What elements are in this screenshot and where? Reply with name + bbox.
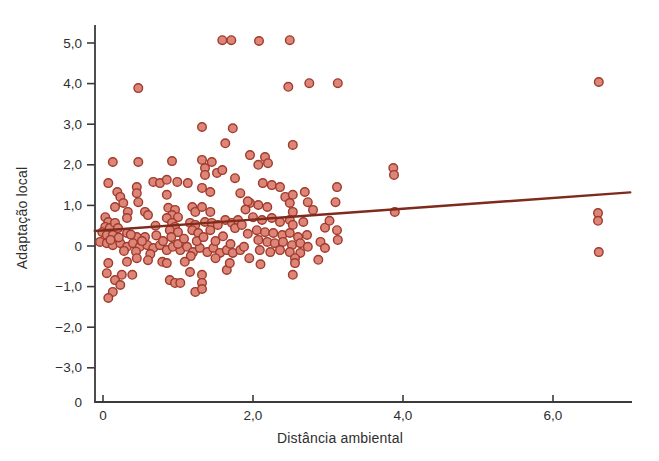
data-point	[206, 208, 215, 217]
data-point	[289, 271, 298, 280]
y-tick-label: 2,0	[63, 157, 82, 172]
data-point	[263, 203, 272, 212]
data-point	[276, 246, 285, 255]
data-point	[198, 203, 207, 212]
data-point	[390, 171, 399, 180]
data-point	[134, 84, 143, 93]
data-point	[276, 183, 285, 192]
data-point	[120, 247, 129, 256]
data-point	[244, 230, 253, 239]
data-point	[304, 243, 313, 252]
data-point	[123, 214, 132, 223]
data-point	[199, 233, 208, 242]
data-point	[286, 229, 295, 238]
x-tick-label: 6,0	[544, 408, 563, 423]
data-point	[595, 78, 604, 87]
data-point	[255, 246, 264, 255]
data-point	[304, 198, 313, 207]
data-point	[163, 191, 172, 200]
data-point	[104, 179, 113, 188]
data-point	[229, 124, 238, 133]
data-point	[286, 36, 295, 45]
data-point	[118, 271, 127, 280]
data-point	[211, 254, 220, 263]
data-point	[254, 236, 263, 245]
data-point	[119, 199, 128, 208]
data-point	[264, 159, 273, 168]
data-point	[127, 230, 136, 239]
data-point	[201, 171, 210, 180]
data-point	[256, 260, 265, 269]
scatter-figure: 5,04,03,02,01,00−1,0−2,0−3,0002,04,06,0 …	[0, 0, 659, 461]
data-point	[254, 201, 263, 210]
data-point	[133, 254, 142, 263]
data-point	[246, 151, 255, 160]
data-point	[241, 205, 250, 214]
data-point	[314, 255, 323, 264]
y-tick-label: 1,0	[63, 198, 82, 213]
data-point	[291, 259, 300, 268]
y-tick-label: −3,0	[55, 360, 82, 375]
data-point	[181, 258, 190, 267]
data-point	[301, 188, 310, 197]
data-point	[104, 259, 113, 268]
data-point	[279, 238, 288, 247]
local-adaptation-scatter-chart: 5,04,03,02,01,00−1,0−2,0−3,0002,04,06,0	[0, 0, 659, 461]
data-point	[321, 244, 330, 253]
data-point	[206, 226, 215, 235]
data-point	[240, 243, 249, 252]
data-point	[333, 226, 342, 235]
data-point	[219, 232, 228, 241]
data-point	[134, 198, 143, 207]
data-point	[226, 259, 235, 268]
data-point	[309, 206, 318, 215]
data-point	[266, 248, 275, 257]
y-tick-label: 4,0	[63, 76, 82, 91]
data-point	[159, 237, 168, 246]
data-point	[334, 236, 343, 245]
y-tick-label: 0	[74, 239, 82, 254]
data-point	[289, 141, 298, 150]
data-point	[133, 189, 142, 198]
y-corner-label: 0	[74, 395, 82, 410]
data-point	[595, 248, 604, 257]
data-point	[198, 123, 207, 132]
data-point	[261, 228, 270, 237]
data-point	[134, 158, 143, 167]
data-point	[236, 189, 245, 198]
data-point	[144, 211, 153, 220]
data-point	[305, 79, 314, 88]
data-point	[303, 231, 312, 240]
data-point	[289, 221, 298, 230]
data-point	[244, 197, 253, 206]
data-point	[331, 198, 340, 207]
data-point	[168, 157, 177, 166]
data-point	[221, 139, 230, 148]
data-point	[144, 256, 153, 265]
data-point	[198, 285, 207, 294]
data-point	[128, 271, 137, 280]
data-point	[594, 217, 603, 226]
data-point	[115, 233, 124, 242]
data-point	[227, 36, 236, 45]
data-point	[289, 208, 298, 217]
data-point	[103, 269, 112, 278]
data-point	[289, 191, 298, 200]
data-point	[269, 229, 278, 238]
data-point	[163, 176, 172, 185]
data-point	[198, 184, 207, 193]
data-point	[208, 158, 217, 167]
data-point	[334, 79, 343, 88]
data-point	[268, 181, 277, 190]
data-point	[206, 188, 215, 197]
data-point	[198, 271, 207, 280]
data-point	[167, 233, 176, 242]
data-point	[286, 199, 295, 208]
y-tick-label: 5,0	[63, 36, 82, 51]
data-point	[198, 156, 207, 165]
data-point	[123, 258, 132, 267]
data-point	[104, 294, 113, 303]
data-point	[284, 83, 293, 92]
y-tick-label: 3,0	[63, 117, 82, 132]
data-point	[254, 161, 263, 170]
